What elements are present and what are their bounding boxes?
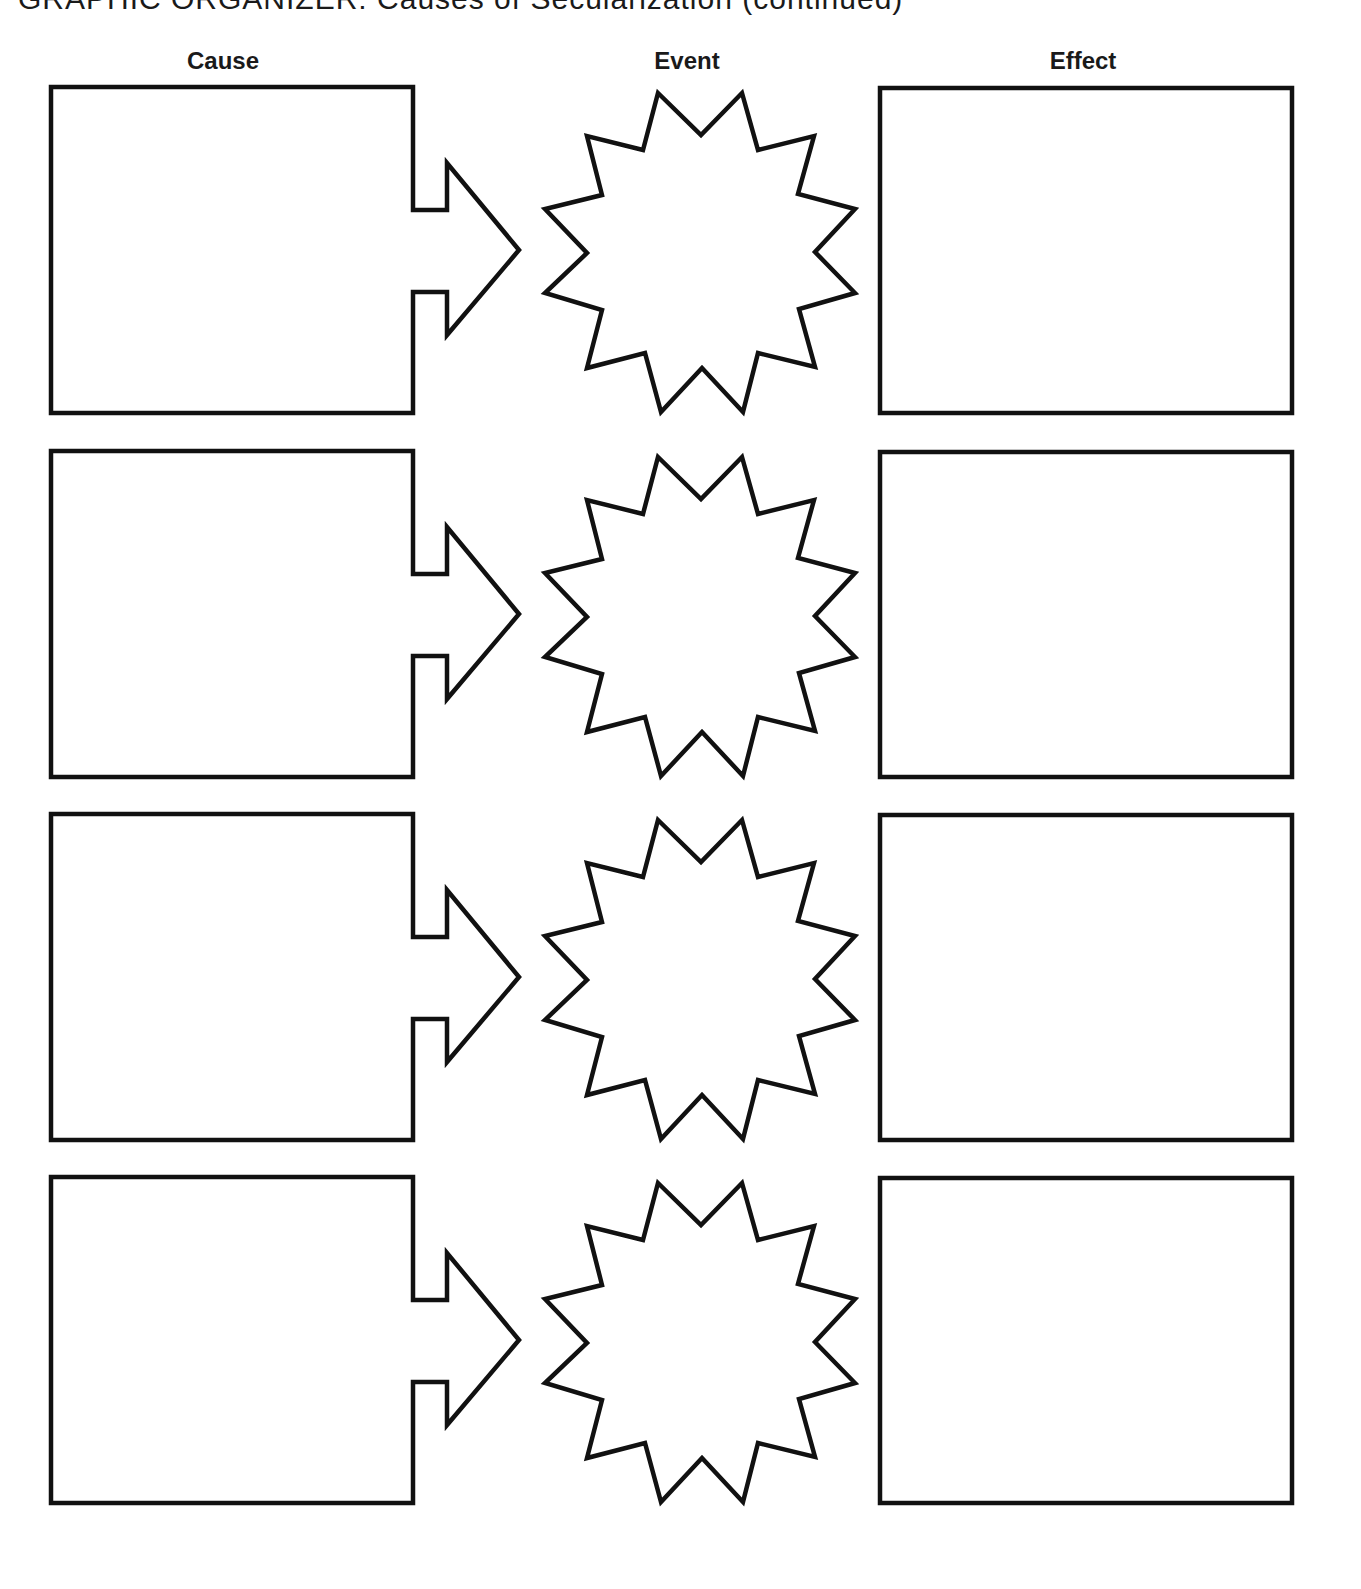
cause-box-2[interactable]: [51, 451, 519, 777]
event-starburst-2[interactable]: [545, 457, 855, 776]
cause-event-effect-diagram: [0, 0, 1361, 1589]
effect-box-1[interactable]: [880, 88, 1292, 413]
event-starburst-3[interactable]: [545, 820, 855, 1139]
event-starburst-4[interactable]: [545, 1183, 855, 1502]
row-4: [51, 1177, 1292, 1503]
event-starburst-1[interactable]: [545, 93, 855, 412]
row-2: [51, 451, 1292, 777]
effect-box-4[interactable]: [880, 1178, 1292, 1503]
effect-box-3[interactable]: [880, 815, 1292, 1140]
cause-box-4[interactable]: [51, 1177, 519, 1503]
row-3: [51, 814, 1292, 1140]
cause-box-3[interactable]: [51, 814, 519, 1140]
effect-box-2[interactable]: [880, 452, 1292, 777]
row-1: [51, 87, 1292, 413]
cause-box-1[interactable]: [51, 87, 519, 413]
